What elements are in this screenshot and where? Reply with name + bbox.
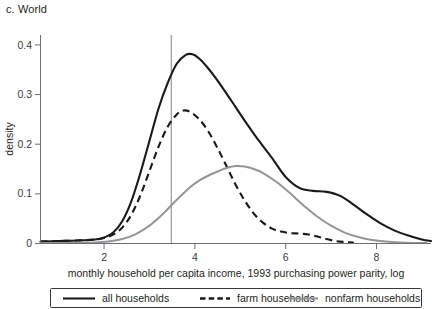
y-tick-group: 00.10.20.30.4	[17, 39, 40, 250]
x-tick-group: 2468	[101, 244, 379, 264]
x-tick-label: 2	[101, 251, 107, 263]
page-title: c. World	[6, 3, 47, 15]
curve-group	[41, 54, 432, 243]
legend-item-group: all householdsfarm householdsnonfarm hou…	[63, 292, 420, 304]
legend: all householdsfarm householdsnonfarm hou…	[51, 289, 422, 308]
y-axis-title: density	[3, 122, 15, 156]
y-tick-label: 0.2	[17, 138, 32, 150]
curve-all-households	[41, 54, 432, 242]
plot-area	[41, 35, 432, 244]
y-tick-label: 0.3	[17, 88, 32, 100]
y-tick-label: 0.4	[17, 39, 32, 51]
figure-panel: c. World 00.10.20.30.4 density 2468 mont…	[0, 0, 437, 309]
density-chart: 00.10.20.30.4 density 2468 monthly house…	[0, 0, 437, 309]
y-tick-label: 0	[26, 237, 32, 249]
legend-label: all households	[102, 292, 169, 304]
x-tick-label: 4	[192, 251, 198, 263]
curve-nonfarm-households	[41, 166, 427, 243]
x-tick-label: 8	[374, 251, 380, 263]
y-tick-label: 0.1	[17, 187, 32, 199]
y-axis: 00.10.20.30.4 density	[3, 35, 41, 249]
legend-label: nonfarm households	[325, 292, 420, 304]
x-axis-title: monthly household per capita income, 199…	[68, 267, 405, 279]
x-tick-label: 6	[283, 251, 289, 263]
curve-farm-households	[41, 110, 354, 242]
x-axis: 2468 monthly household per capita income…	[41, 244, 432, 280]
